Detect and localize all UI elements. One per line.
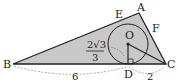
label-e: E (115, 8, 123, 21)
length-bd: 6 (72, 71, 78, 82)
center-point-o (126, 42, 129, 45)
label-a: A (136, 1, 146, 14)
label-f: F (152, 22, 160, 35)
radius-numerator: 2√3 (87, 39, 106, 50)
radius-denominator: 3 (92, 52, 98, 63)
geometry-figure: A B C D E F O 6 2 2√3 3 (0, 0, 177, 84)
label-d: D (124, 68, 133, 81)
dimension-arc-bd (14, 66, 127, 74)
label-b: B (3, 58, 11, 71)
length-dc: 2 (147, 71, 153, 82)
label-c: C (167, 58, 175, 71)
label-o: O (125, 29, 134, 42)
